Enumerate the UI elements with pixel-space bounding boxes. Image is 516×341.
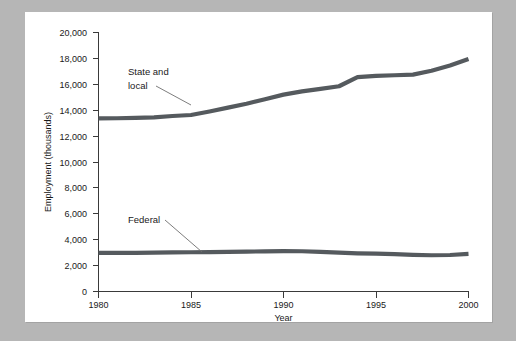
y-tick-label-2000: 2,000 <box>64 261 87 271</box>
leader-line-federal <box>165 220 202 252</box>
figure-container: 20,000 18,000 16,000 14,000 12,000 10,00… <box>0 0 516 341</box>
chart-panel: 20,000 18,000 16,000 14,000 12,000 10,00… <box>25 12 492 322</box>
x-tick-label-2000: 2000 <box>458 300 478 310</box>
x-tick-label-1985: 1985 <box>181 300 201 310</box>
y-axis-title: Employment (thousands) <box>43 112 53 212</box>
y-tick-marks <box>93 33 99 292</box>
y-tick-label-4000: 4,000 <box>64 235 87 245</box>
annotation-state-and-local-line2: local <box>128 80 148 91</box>
x-tick-label-1980: 1980 <box>88 300 108 310</box>
leader-line-state-and-local <box>156 86 191 105</box>
x-tick-marks <box>99 292 469 298</box>
y-tick-label-14000: 14,000 <box>59 106 87 116</box>
y-tick-label-12000: 12,000 <box>59 132 87 142</box>
y-tick-label-20000: 20,000 <box>59 28 87 38</box>
x-tick-label-1990: 1990 <box>273 300 293 310</box>
x-axis-title: Year <box>274 313 292 322</box>
x-tick-label-1995: 1995 <box>366 300 386 310</box>
line-series-federal <box>99 251 469 255</box>
y-tick-label-0: 0 <box>82 287 87 297</box>
y-tick-label-8000: 8,000 <box>64 183 87 193</box>
annotation-federal-line1: Federal <box>128 214 160 225</box>
annotation-state-and-local-line1: State and <box>128 66 169 77</box>
y-tick-label-6000: 6,000 <box>64 209 87 219</box>
y-tick-label-16000: 16,000 <box>59 80 87 90</box>
y-tick-label-10000: 10,000 <box>59 158 87 168</box>
y-tick-label-18000: 18,000 <box>59 54 87 64</box>
line-chart: 20,000 18,000 16,000 14,000 12,000 10,00… <box>25 12 492 322</box>
